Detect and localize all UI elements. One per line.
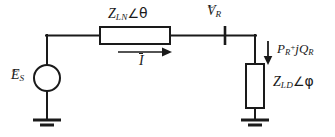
current-arrow-icon bbox=[118, 48, 172, 57]
tilde-accent-icon-source: ~ bbox=[11, 65, 19, 76]
tilde-accent-icon: ~ bbox=[207, 1, 215, 12]
load-impedance-subscript: LD bbox=[281, 80, 293, 90]
theta-symbol: θ bbox=[139, 5, 148, 21]
circuit-schematic-canvas bbox=[0, 0, 335, 137]
current-label: I bbox=[139, 54, 144, 68]
source-voltage-subscript: S bbox=[20, 73, 25, 83]
phi-symbol: φ bbox=[305, 73, 314, 89]
power-label: PR+jQR bbox=[277, 42, 314, 57]
wire-group bbox=[46, 35, 256, 119]
current-symbol-wrap: I bbox=[139, 54, 144, 68]
load-impedance-symbol: Z bbox=[273, 74, 281, 89]
current-symbol: I bbox=[139, 53, 144, 68]
line-impedance-box bbox=[100, 27, 170, 44]
receiving-voltage-subscript: R bbox=[216, 9, 222, 19]
power-flow-arrow-icon bbox=[264, 41, 273, 65]
angle-sign-icon-load: ∠ bbox=[293, 74, 305, 89]
line-impedance-symbol: Z bbox=[108, 6, 116, 21]
line-impedance-subscript: LN bbox=[116, 12, 128, 22]
voltage-source-symbol bbox=[34, 65, 60, 91]
reactive-power-subscript: R bbox=[308, 47, 313, 57]
circuit-diagram: ZLN∠θ ~VR I ~ES PR+jQR ZLD∠φ bbox=[0, 0, 335, 137]
overline-accent-icon bbox=[139, 53, 143, 54]
load-impedance-box bbox=[246, 64, 264, 108]
receiving-voltage-label: ~VR bbox=[207, 4, 221, 20]
source-voltage-label: ~ES bbox=[11, 68, 24, 84]
source-voltage-symbol-wrap: ~E bbox=[11, 68, 20, 82]
ground-symbol-load bbox=[241, 120, 269, 125]
load-impedance-label: ZLD∠φ bbox=[273, 74, 314, 91]
line-impedance-label: ZLN∠θ bbox=[108, 6, 148, 23]
real-power-symbol: P bbox=[277, 41, 285, 56]
ground-symbol-source bbox=[33, 120, 61, 125]
receiving-voltage-symbol-wrap: ~V bbox=[207, 4, 216, 18]
angle-sign-icon: ∠ bbox=[128, 6, 140, 21]
reactive-power-symbol: Q bbox=[299, 41, 308, 56]
